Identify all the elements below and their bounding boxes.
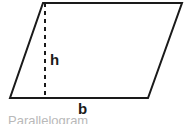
parallelogram-outline xyxy=(10,3,182,98)
parallelogram-svg xyxy=(0,0,190,124)
figure-caption: Parallelogram xyxy=(8,114,188,124)
parallelogram-figure: h b Parallelogram xyxy=(0,0,190,124)
height-label: h xyxy=(50,52,59,67)
